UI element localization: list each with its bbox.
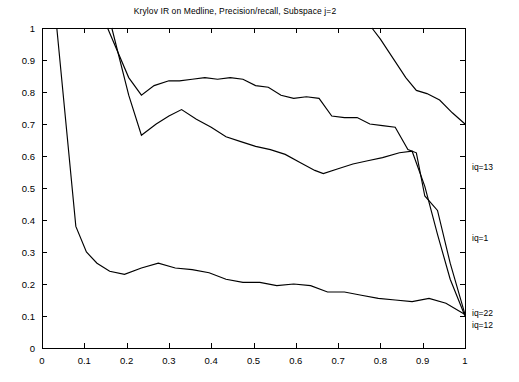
series-line-iq=12 xyxy=(112,28,465,316)
series-line-iq=13 xyxy=(372,28,465,124)
axis-frame xyxy=(42,28,465,348)
x-tick-label-0: 0 xyxy=(39,355,44,366)
data-series-group xyxy=(57,28,465,316)
series-label-iq=1: iq=1 xyxy=(472,233,489,243)
x-axis-tick-labels: 00.10.20.30.40.50.60.70.80.91 xyxy=(39,355,467,366)
y-tick-label-5: 0.5 xyxy=(22,183,35,194)
x-tick-label-1: 0.1 xyxy=(78,355,91,366)
y-axis-tick-labels: 00.10.20.30.40.50.60.70.80.91 xyxy=(22,23,35,354)
y-tick-label-9: 0.9 xyxy=(22,55,35,66)
y-tick-label-1: 0.1 xyxy=(22,311,35,322)
x-tick-label-4: 0.4 xyxy=(205,355,218,366)
figure-container: Krylov IR on Medline, Precision/recall, … xyxy=(0,0,519,382)
precision-recall-plot: 00.10.20.30.40.50.60.70.80.91 00.10.20.3… xyxy=(0,0,519,382)
x-tick-label-6: 0.6 xyxy=(289,355,302,366)
y-tick-label-2: 0.2 xyxy=(22,279,35,290)
y-tick-label-10: 1 xyxy=(30,23,35,34)
y-tick-label-8: 0.8 xyxy=(22,87,35,98)
y-tick-label-7: 0.7 xyxy=(22,119,35,130)
series-line-iq=1 xyxy=(57,28,465,314)
x-tick-label-8: 0.8 xyxy=(374,355,387,366)
x-tick-label-2: 0.2 xyxy=(120,355,133,366)
y-tick-label-4: 0.4 xyxy=(22,215,35,226)
x-axis-ticks xyxy=(43,28,466,348)
x-tick-label-3: 0.3 xyxy=(162,355,175,366)
x-tick-label-10: 1 xyxy=(462,355,467,366)
series-annotations-group: iq=13iq=22iq=12iq=1 xyxy=(472,162,493,330)
x-tick-label-9: 0.9 xyxy=(416,355,429,366)
x-tick-label-5: 0.5 xyxy=(247,355,260,366)
series-label-iq=13: iq=13 xyxy=(472,162,493,172)
y-tick-label-0: 0 xyxy=(30,343,35,354)
series-line-iq=22 xyxy=(108,28,465,314)
series-label-iq=12: iq=12 xyxy=(472,320,493,330)
series-label-iq=22: iq=22 xyxy=(472,308,493,318)
y-tick-label-3: 0.3 xyxy=(22,247,35,258)
x-tick-label-7: 0.7 xyxy=(331,355,344,366)
y-tick-label-6: 0.6 xyxy=(22,151,35,162)
